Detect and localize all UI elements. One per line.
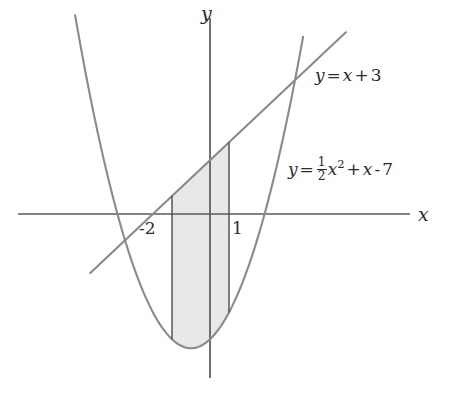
line-eq-variable: x — [343, 65, 353, 85]
parabola-eq-exponent: 2 — [337, 157, 344, 171]
line-equation-label: y=x+3 — [315, 67, 382, 84]
x-axis-label: x — [418, 205, 429, 224]
tick-label-1: 1 — [232, 220, 243, 237]
parabola-eq-minus: - — [372, 159, 382, 179]
fraction-numerator: 1 — [317, 156, 327, 170]
parabola-equation-label: y=12x2+x-7 — [288, 156, 393, 183]
parabola-eq-constant: 7 — [382, 159, 393, 179]
tick-label-minus-2: -2 — [139, 220, 156, 237]
parabola-eq-lhs: y — [288, 159, 298, 179]
line-eq-plus: + — [352, 65, 370, 85]
parabola-eq-linear-variable: x — [363, 159, 373, 179]
math-figure: y x -2 1 y=x+3 y=12x2+x-7 — [0, 0, 455, 393]
y-axis-label: y — [201, 4, 212, 23]
line-eq-equals: = — [325, 65, 343, 85]
line-eq-constant: 3 — [371, 65, 382, 85]
parabola-eq-plus: + — [345, 159, 363, 179]
parabola-eq-equals: = — [298, 159, 316, 179]
shaded-area-fill — [172, 142, 229, 348]
fraction-denominator: 2 — [317, 170, 327, 183]
line-eq-lhs: y — [315, 65, 325, 85]
parabola-eq-variable: x — [328, 159, 338, 179]
parabola-eq-fraction-one-half: 12 — [317, 156, 327, 183]
graph-canvas — [0, 0, 455, 393]
